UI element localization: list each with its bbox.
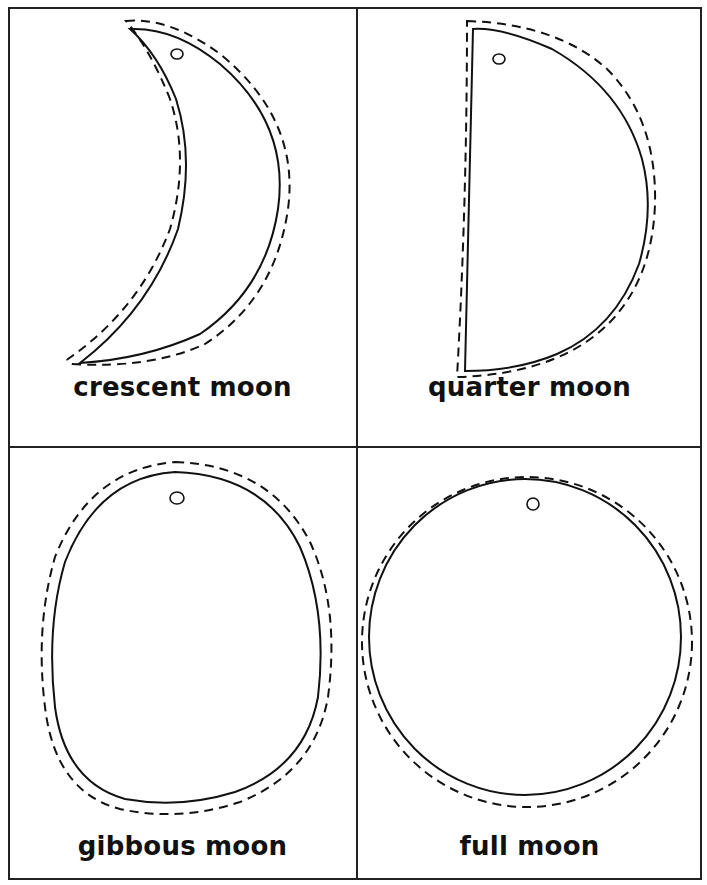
card-label: quarter moon — [357, 372, 702, 402]
full-moon-shape — [357, 447, 702, 878]
card-label: crescent moon — [10, 372, 355, 402]
crescent-outline — [80, 29, 280, 363]
crescent-cut-line — [67, 21, 289, 365]
hanging-hole-icon — [527, 498, 539, 510]
hanging-hole-icon — [170, 492, 184, 504]
gibbous-outline — [52, 472, 321, 803]
card-full-moon: full moon — [357, 447, 702, 878]
card-gibbous-moon: gibbous moon — [10, 447, 355, 878]
card-label: full moon — [357, 831, 702, 861]
card-quarter-moon: quarter moon — [357, 9, 702, 445]
card-crescent-moon: crescent moon — [10, 9, 355, 445]
card-label: gibbous moon — [10, 831, 355, 861]
quarter-outline — [465, 29, 648, 371]
gibbous-moon-shape — [10, 447, 355, 878]
hanging-hole-icon — [171, 49, 183, 59]
gibbous-cut-line — [42, 462, 332, 814]
quarter-cut-line — [457, 21, 655, 377]
full-outline — [369, 479, 681, 795]
hanging-hole-icon — [493, 54, 505, 64]
full-cut-line — [362, 477, 692, 807]
